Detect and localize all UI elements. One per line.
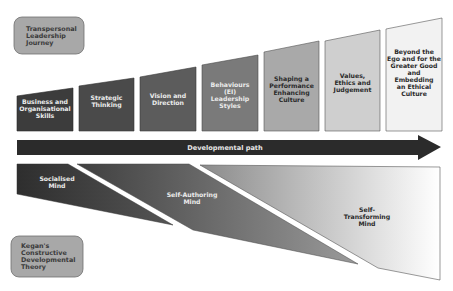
arrow-label: Developmental path [187, 144, 263, 152]
column-label-line: and [407, 69, 420, 76]
title-box-line: Journey [25, 39, 54, 47]
stage-label-line: Mind [358, 220, 375, 227]
transpersonal-journey-box: Transpersonal Leadership Journey [14, 17, 84, 54]
stage-label-line: Mind [48, 182, 65, 189]
column-label-line: Direction [152, 99, 184, 106]
column-label-line: an Ethical [397, 83, 431, 90]
kegan-theory-box: Kegan's Constructive Developmental Theor… [11, 236, 83, 277]
column-beyond-ego: Beyond the Ego and for the Greater Good … [386, 18, 442, 131]
column-label-line: Skills [36, 112, 55, 119]
title-box-line: Theory [21, 263, 47, 271]
column-label-line: Ethics and [334, 79, 370, 86]
developmental-path-arrow: Developmental path [17, 135, 441, 160]
column-label-line: Judgement [333, 86, 372, 94]
column-vision-direction: Vision and Direction [140, 67, 196, 131]
column-values-ethics: Values, Ethics and Judgement [325, 30, 380, 131]
column-label-line: Values, [340, 72, 365, 79]
stage-label-line: Mind [183, 198, 200, 205]
stage-label-line: Self- [359, 206, 375, 213]
column-label-line: Thinking [91, 101, 121, 109]
column-behaviours-styles: Behaviours (EI) Leadership Styles [202, 55, 258, 131]
column-performance-culture: Shaping a Performance Enhancing Culture [264, 41, 319, 131]
column-label-line: Greater Good [391, 62, 438, 69]
column-label-line: Behaviours [210, 81, 249, 88]
column-label-line: (EI) [224, 88, 236, 95]
column-label-line: Business and [22, 98, 68, 105]
column-business-skills: Business and Organisational Skills [17, 88, 73, 131]
column-label-line: Vision and [150, 92, 186, 99]
column-label-line: Styles [219, 102, 241, 110]
column-label-line: Performance [269, 82, 314, 89]
leadership-diagram: Transpersonal Leadership Journey Busines… [0, 0, 453, 291]
column-strategic-thinking: Strategic Thinking [79, 78, 134, 131]
column-label-line: Culture [401, 90, 427, 97]
column-label-line: Culture [279, 96, 305, 103]
stage-label-line: Socialised [39, 175, 74, 182]
